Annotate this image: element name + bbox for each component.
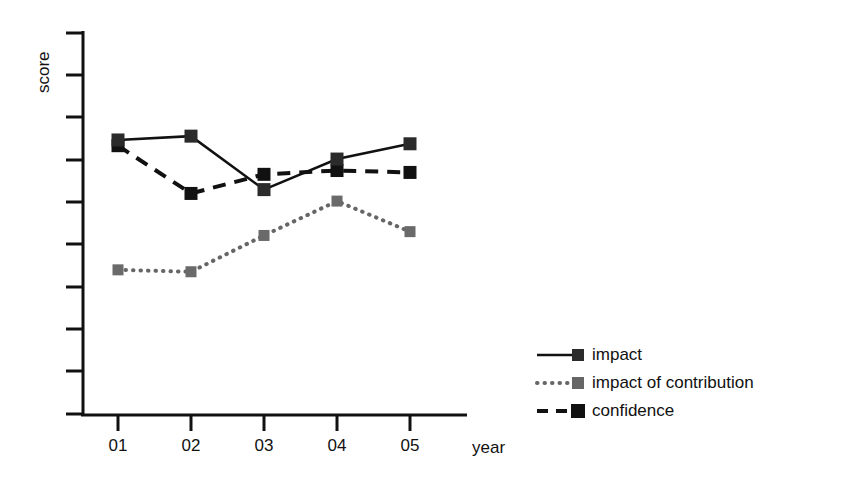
legend-swatch-marker-confidence [571,404,585,418]
data-point-marker [332,196,343,207]
legend-label-confidence: confidence [592,401,674,421]
line-chart-canvas [0,0,845,485]
data-point-marker [258,183,271,196]
data-point-marker [331,164,344,177]
data-point-marker [331,153,344,166]
data-point-marker [404,166,417,179]
data-point-marker [185,130,198,143]
x-tick-label-03: 03 [244,436,284,456]
legend-swatch-marker-impact [572,349,584,361]
data-point-marker [186,266,197,277]
data-point-marker [113,264,124,275]
data-point-marker [185,187,198,200]
legend-label-impact: impact [592,345,642,365]
x-tick-label-01: 01 [98,436,138,456]
x-tick-label-05: 05 [390,436,430,456]
data-point-marker [258,168,271,181]
y-axis-title: score [34,51,54,93]
legend-label-impact-of-contribution: impact of contribution [592,373,754,393]
data-point-marker [259,230,270,241]
chart-figure: score year 01 02 03 04 05 impact impact … [0,0,845,485]
legend-swatch-marker-impact-of-contribution [572,377,584,389]
x-tick-label-04: 04 [317,436,357,456]
chart-background [0,0,845,485]
data-point-marker [404,137,417,150]
x-axis-title: year [472,438,505,458]
data-point-marker [405,226,416,237]
x-tick-label-02: 02 [171,436,211,456]
data-point-marker [112,133,125,146]
